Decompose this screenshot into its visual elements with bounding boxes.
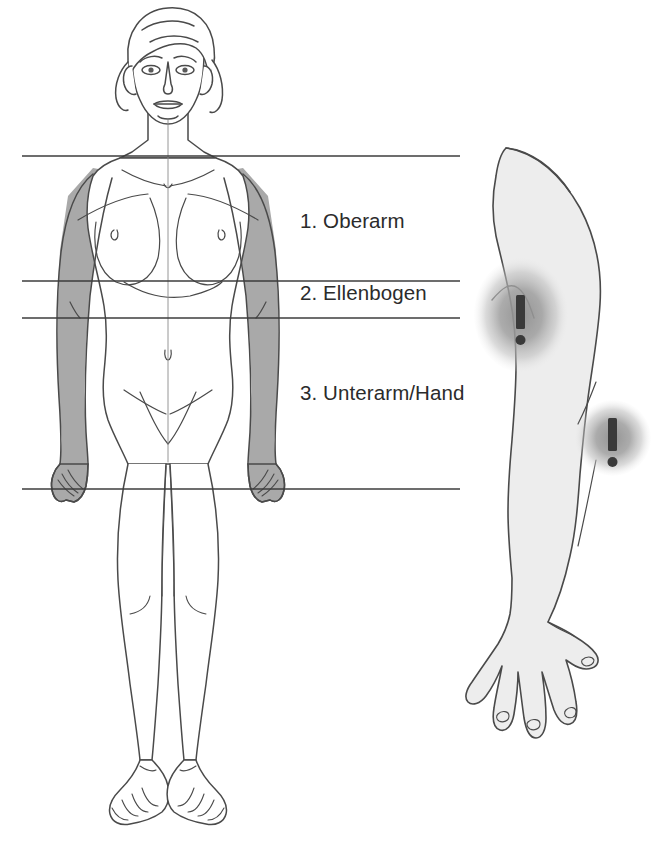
- right-hand: [248, 464, 285, 502]
- diagram-canvas: [0, 0, 669, 862]
- upper-arm-warning: [474, 258, 568, 372]
- upper-arm-warning-bar: [516, 295, 525, 329]
- pupil-left: [148, 67, 153, 72]
- forearm-warning-dot: [608, 457, 618, 467]
- head: [116, 8, 223, 158]
- right-leg: [170, 464, 219, 760]
- label-oberarm: 1. Oberarm: [300, 209, 405, 233]
- female-body-figure: [51, 8, 284, 825]
- chin-line: [158, 116, 178, 119]
- pupil-right: [182, 67, 187, 72]
- hands: [51, 464, 284, 502]
- label-ellenbogen: 2. Ellenbogen: [300, 281, 427, 305]
- left-leg: [117, 464, 166, 760]
- left-hand: [51, 464, 88, 502]
- legs: [117, 464, 218, 760]
- anatomical-diagram: 1. Oberarm 2. Ellenbogen 3. Unterarm/Han…: [0, 0, 669, 862]
- feet: [109, 760, 226, 825]
- label-unterarm-hand: 3. Unterarm/Hand: [300, 381, 465, 405]
- upper-arm-warning-dot: [516, 335, 526, 345]
- forearm-warning-bar: [608, 418, 617, 451]
- forearm-warning: [575, 400, 651, 476]
